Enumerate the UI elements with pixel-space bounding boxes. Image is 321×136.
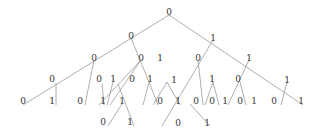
- tree-node-label: 1: [49, 97, 55, 106]
- tree-node-label: 1: [246, 54, 252, 63]
- tree-node-label: 0: [129, 75, 135, 84]
- tree-node-label: 1: [210, 34, 216, 43]
- binary-tree-diagram: 00100101001011101010110100101010101: [0, 0, 321, 136]
- tree-node-label: 0: [271, 97, 277, 106]
- tree-edge: [108, 104, 122, 126]
- tree-node-label: 1: [298, 97, 304, 106]
- tree-node-label: 1: [251, 97, 257, 106]
- tree-edge: [85, 60, 94, 105]
- tree-node-label: 1: [171, 76, 177, 85]
- tree-node-label: 0: [175, 119, 181, 128]
- tree-node-label: 1: [147, 75, 153, 84]
- tree-node-label: 1: [110, 75, 116, 84]
- tree-node-label: 0: [166, 8, 172, 17]
- tree-node-label: 0: [237, 97, 243, 106]
- tree-node-label: 0: [235, 75, 241, 84]
- tree-node-label: 1: [222, 97, 228, 106]
- tree-edge: [143, 82, 149, 105]
- tree-node-label: 0: [128, 32, 134, 41]
- tree-node-label: 0: [77, 97, 83, 106]
- tree-edge: [162, 40, 213, 126]
- tree-edges: [0, 0, 321, 136]
- tree-node-label: 0: [91, 54, 97, 63]
- tree-node-label: 1: [119, 97, 125, 106]
- tree-node-label: 0: [49, 75, 55, 84]
- tree-node-label: 1: [127, 118, 133, 127]
- tree-node-label: 0: [138, 54, 144, 63]
- tree-node-label: 1: [157, 54, 163, 63]
- tree-node-label: 0: [20, 97, 26, 106]
- tree-node-label: 0: [209, 97, 215, 106]
- tree-node-label: 1: [284, 76, 290, 85]
- tree-edge: [169, 15, 303, 105]
- tree-node-label: 1: [209, 75, 215, 84]
- tree-node-label: 0: [195, 54, 201, 63]
- tree-node-label: 0: [96, 75, 102, 84]
- tree-node-label: 0: [193, 97, 199, 106]
- tree-node-label: 1: [100, 97, 106, 106]
- tree-node-label: 0: [100, 118, 106, 127]
- tree-node-label: 1: [175, 97, 181, 106]
- tree-node-label: 0: [157, 97, 163, 106]
- tree-node-label: 1: [204, 119, 210, 128]
